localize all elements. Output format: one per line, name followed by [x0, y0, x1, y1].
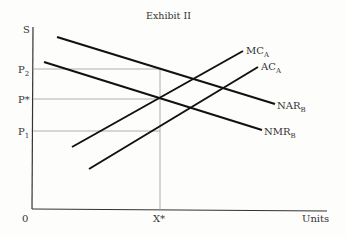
x-axis	[32, 209, 327, 211]
nar-b-label: NARB	[277, 100, 306, 114]
p2-label: P2	[18, 64, 29, 78]
nmr-b-line	[44, 62, 262, 130]
ac-a-line	[89, 67, 258, 169]
origin-label: 0	[22, 213, 28, 224]
xstar-label: X*	[153, 213, 165, 224]
mc-a-label: MCA	[246, 45, 270, 59]
p1-label: P1	[18, 126, 29, 140]
exhibit-chart: Exhibit II S P2 P* P1 0 X* Units MCA ACA…	[0, 0, 346, 236]
ac-a-label: ACA	[260, 61, 282, 75]
pstar-label: P*	[18, 94, 30, 105]
y-axis	[32, 27, 33, 209]
y-axis-label: S	[23, 24, 30, 35]
chart-title: Exhibit II	[146, 10, 191, 21]
x-axis-label: Units	[302, 213, 329, 224]
nmr-b-label: NMRB	[264, 126, 296, 140]
